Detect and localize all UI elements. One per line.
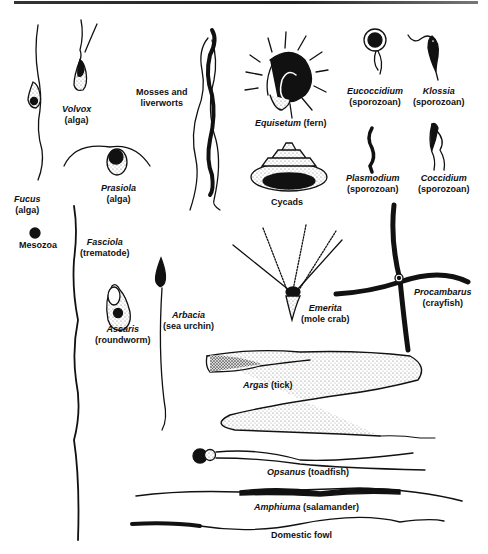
label-name: Fasciola xyxy=(80,237,130,248)
mosses-illustration xyxy=(190,30,220,210)
label-name: Mesozoa xyxy=(19,240,57,250)
label-cycads: Cycads xyxy=(271,197,303,208)
label-name: Volvox xyxy=(62,104,91,115)
label-mesozoa: Mesozoa xyxy=(19,240,57,251)
klossia-illustration xyxy=(408,35,438,80)
label-name: Ascaris xyxy=(95,324,151,335)
label-name: Fucus xyxy=(14,194,41,205)
label-name: Domestic fowl xyxy=(271,530,332,540)
label-name: Eucoccidium xyxy=(347,86,403,97)
label-name: Arbacia xyxy=(163,310,214,321)
label-group: (roundworm) xyxy=(95,335,151,345)
prasiola-illustration xyxy=(64,146,150,175)
volvox-illustration xyxy=(74,20,97,90)
label-prasiola: Prasiola(alga) xyxy=(101,183,136,205)
label-group: (mole crab) xyxy=(301,314,350,324)
plasmodium-illustration xyxy=(369,128,374,172)
arbacia-illustration xyxy=(156,258,166,430)
label-name: Klossia xyxy=(413,86,465,97)
label-fasciola: Fasciola(trematode) xyxy=(80,237,130,259)
label-name: Procambarus xyxy=(414,287,472,298)
label-group: (alga) xyxy=(65,115,89,125)
label-argas: Argas (tick) xyxy=(243,380,293,391)
label-emerita: Emerita(mole crab) xyxy=(301,303,350,325)
label-volvox: Volvox(alga) xyxy=(62,104,91,126)
label-name: Opsanus xyxy=(267,467,306,477)
label-group: (sea urchin) xyxy=(163,321,214,331)
label-name: Equisetum xyxy=(255,118,301,128)
label-name: Argas xyxy=(243,380,269,390)
argas-illustration xyxy=(206,351,435,438)
cycads-illustration xyxy=(251,143,327,191)
label-klossia: Klossia(sporozoan) xyxy=(413,86,465,108)
amphiuma-illustration xyxy=(136,488,462,501)
label-group: liverworts xyxy=(141,98,184,108)
eucoccidium-illustration xyxy=(364,29,386,74)
coccidium-illustration xyxy=(430,124,445,171)
label-domestic-fowl: Domestic fowl xyxy=(271,530,332,541)
fucus-illustration xyxy=(28,25,43,180)
mesozoa-illustration xyxy=(30,228,40,238)
label-mosses: Mosses andliverworts xyxy=(136,87,188,109)
label-group: (alga) xyxy=(107,194,131,204)
label-name: Emerita xyxy=(301,303,350,314)
label-opsanus: Opsanus (toadfish) xyxy=(267,467,349,478)
label-name: Plasmodium xyxy=(346,173,400,184)
label-ascaris: Ascaris(roundworm) xyxy=(95,324,151,346)
label-arbacia: Arbacia(sea urchin) xyxy=(163,310,214,332)
label-amphiuma: Amphiuma (salamander) xyxy=(254,502,359,513)
label-group: (sporozoan) xyxy=(418,184,470,194)
label-group: (sporozoan) xyxy=(347,184,399,194)
label-eucoccidium: Eucoccidium(sporozoan) xyxy=(347,86,403,108)
label-group: (sporozoan) xyxy=(349,97,401,107)
domestic-fowl-illustration xyxy=(132,517,444,529)
label-coccidium: Coccidium(sporozoan) xyxy=(418,173,470,195)
label-group: (crayfish) xyxy=(423,298,464,308)
label-group: (alga) xyxy=(15,205,39,215)
label-fucus: Fucus(alga) xyxy=(14,194,41,216)
procambarus-illustration xyxy=(336,205,468,350)
label-name: Cycads xyxy=(271,197,303,207)
label-name: Prasiola xyxy=(101,183,136,194)
label-group: (salamander) xyxy=(303,502,359,512)
label-group: (toadfish) xyxy=(308,467,349,477)
sperm-illustrations xyxy=(0,0,488,554)
label-name: Mosses and xyxy=(136,87,188,98)
label-equisetum: Equisetum (fern) xyxy=(255,118,327,129)
equisetum-illustration xyxy=(245,32,328,118)
fasciola-illustration xyxy=(74,206,79,540)
label-name: Coccidium xyxy=(418,173,470,184)
label-group: (trematode) xyxy=(80,248,130,258)
label-group: (sporozoan) xyxy=(413,97,465,107)
label-procambarus: Procambarus(crayfish) xyxy=(414,287,472,309)
label-group: (tick) xyxy=(271,380,293,390)
label-plasmodium: Plasmodium(sporozoan) xyxy=(346,173,400,195)
label-group: (fern) xyxy=(304,118,327,128)
label-name: Amphiuma xyxy=(254,502,301,512)
